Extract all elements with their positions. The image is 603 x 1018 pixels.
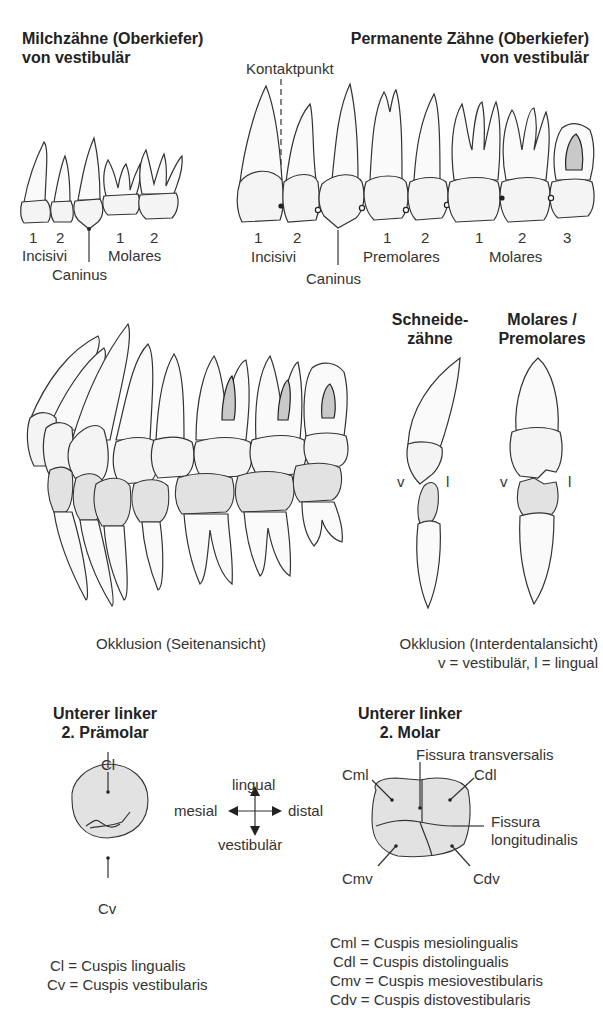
molar-label-cdl: Cdl — [474, 766, 497, 784]
occlusion-interdental-caption: Okklusion (Interdentalansicht) — [400, 635, 598, 653]
interdental-v-label-molars: v — [500, 473, 508, 491]
molar-legend-cdv: Cdv = Cuspis distovestibularis — [330, 991, 531, 1009]
occlusion-interdental-legend: v = vestibulär, l = lingual — [438, 654, 598, 672]
permanent-group-premolares: Premolares — [363, 248, 440, 266]
premolar-legend-cl: Cl = Cuspis lingualis — [50, 957, 185, 975]
molar-legend-cdl: Cdl = Cuspis distolingualis — [333, 953, 509, 971]
interdental-header-molars: Molares / Premolares — [490, 310, 594, 348]
interdental-header-molars-line2: Premolares — [490, 329, 594, 348]
molar-label-cdv: Cdv — [473, 870, 500, 888]
primary-number-i1: 1 — [29, 229, 37, 247]
molar-legend-cml: Cml = Cuspis mesiolingualis — [330, 934, 518, 952]
molar-label-cml: Cml — [342, 766, 369, 784]
interdental-v-label-incisors: v — [397, 473, 405, 491]
occlusion-side-caption: Okklusion (Seitenansicht) — [96, 635, 266, 653]
molar-title-line1: Unterer linker — [350, 704, 470, 723]
occlusion-interdental-drawing — [407, 358, 562, 608]
interdental-header-incisors: Schneide- zähne — [388, 310, 472, 348]
occlusion-side-drawing — [27, 324, 348, 606]
orientation-lingual: lingual — [232, 776, 275, 794]
molar-label-fissura-transversalis: Fissura transversalis — [416, 746, 554, 764]
permanent-number-pm2: 2 — [421, 229, 429, 247]
contact-point-label: Kontaktpunkt — [246, 60, 334, 78]
primary-group-incisivi: Incisivi — [22, 247, 67, 265]
interdental-header-incisors-line1: Schneide- — [388, 310, 472, 329]
molar-title: Unterer linker 2. Molar — [350, 704, 470, 742]
molar-title-line2: 2. Molar — [350, 723, 470, 742]
orientation-mesial: mesial — [174, 802, 217, 820]
permanent-teeth-title-line2: von vestibulär — [351, 48, 589, 67]
molar-occlusal-drawing — [372, 762, 484, 866]
primary-teeth-title-line1: Milchzähne (Oberkiefer) — [22, 29, 203, 48]
molar-legend-cmv: Cmv = Cuspis mesiovestibularis — [330, 972, 543, 990]
permanent-number-pm1: 1 — [383, 229, 391, 247]
molar-label-fissura-longitudinalis-1: Fissura — [491, 813, 540, 831]
primary-number-m1: 1 — [116, 229, 124, 247]
premolar-title: Unterer linker 2. Prämolar — [40, 704, 170, 742]
molar-label-cmv: Cmv — [342, 870, 373, 888]
permanent-teeth-title-line1: Permanente Zähne (Oberkiefer) — [351, 29, 589, 48]
permanent-number-i2: 2 — [293, 229, 301, 247]
permanent-group-caninus: Caninus — [306, 270, 361, 288]
orientation-vestibular: vestibulär — [218, 836, 282, 854]
primary-teeth-title: Milchzähne (Oberkiefer) von vestibulär — [22, 29, 203, 67]
premolar-label-cl: Cl — [101, 756, 115, 774]
orientation-distal: distal — [288, 802, 323, 820]
interdental-header-molars-line1: Molares / — [490, 310, 594, 329]
premolar-legend-cv: Cv = Cuspis vestibularis — [47, 976, 207, 994]
interdental-header-incisors-line2: zähne — [388, 329, 472, 348]
primary-group-molares: Molares — [108, 247, 161, 265]
primary-teeth-title-line2: von vestibulär — [22, 48, 203, 67]
permanent-number-m3: 3 — [563, 229, 571, 247]
permanent-group-incisivi: Incisivi — [251, 248, 296, 266]
permanent-teeth-title: Permanente Zähne (Oberkiefer) von vestib… — [351, 29, 589, 67]
interdental-l-label-incisors: l — [446, 473, 449, 491]
primary-number-i2: 2 — [56, 229, 64, 247]
permanent-group-molares: Molares — [489, 248, 542, 266]
permanent-teeth-drawing — [237, 79, 594, 265]
permanent-number-i1: 1 — [254, 229, 262, 247]
dental-illustrations — [0, 0, 603, 1018]
premolar-label-cv: Cv — [98, 900, 116, 918]
primary-group-caninus: Caninus — [52, 266, 107, 284]
molar-label-fissura-longitudinalis-2: longitudinalis — [491, 831, 578, 849]
premolar-title-line2: 2. Prämolar — [40, 723, 170, 742]
permanent-number-m2: 2 — [518, 229, 526, 247]
permanent-number-m1: 1 — [475, 229, 483, 247]
primary-number-m2: 2 — [150, 229, 158, 247]
interdental-l-label-molars: l — [568, 473, 571, 491]
premolar-title-line1: Unterer linker — [40, 704, 170, 723]
